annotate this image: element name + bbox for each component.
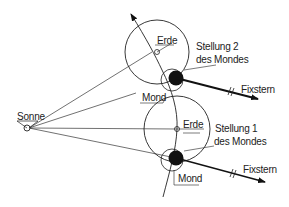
position-2-label-line1: Stellung 2 (196, 41, 238, 52)
diagram-drawing (0, 0, 289, 207)
sun-label: Sonne (17, 111, 45, 122)
moon-label-position-1: Mond (178, 173, 202, 184)
earth-label-position-1: Erde (183, 119, 203, 130)
fixed-star-label-bottom: Fixstern (243, 164, 277, 175)
moon-phase-diagram: Sonne Erde Stellung 2 des Mondes Fixster… (0, 0, 289, 207)
position-2-label-line2: des Mondes (196, 54, 248, 65)
position-1-label-line1: Stellung 1 (215, 123, 257, 134)
moon-label-position-2: Mond (142, 92, 166, 103)
position-1-label-line2: des Mondes (214, 136, 266, 147)
fixed-star-label-top: Fixstern (241, 84, 275, 95)
earth-label-position-2: Erde (157, 35, 177, 46)
